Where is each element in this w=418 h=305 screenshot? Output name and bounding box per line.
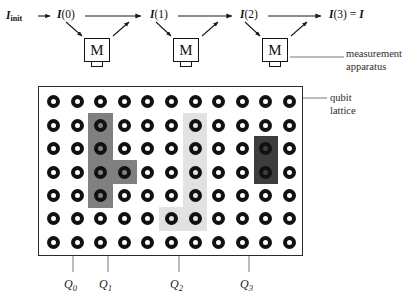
qubit-node: [259, 189, 272, 202]
qubit-node: [283, 212, 296, 225]
qubit-node: [141, 236, 154, 249]
qubit-node: [212, 166, 225, 179]
qubit-node: [283, 236, 296, 249]
qubit-node: [283, 119, 296, 132]
qubit-node: [141, 166, 154, 179]
qubit-node: [141, 119, 154, 132]
qubit-node: [259, 119, 272, 132]
qubit-node: [189, 119, 202, 132]
arrow-i2-down-m2: [245, 22, 260, 36]
arrow-i1-down-m1: [156, 22, 171, 36]
qubit-node: [94, 95, 107, 108]
measurement-box-stand: [91, 62, 103, 67]
qubit-node: [189, 212, 202, 225]
qubit-node: [118, 189, 131, 202]
measurement-apparatus-m1: M: [173, 38, 199, 67]
qubit-node: [118, 236, 131, 249]
qubit-set-label-Q3: Q3: [240, 278, 253, 290]
flow-label-i3: I(3) = I: [329, 9, 364, 21]
qubit-set-label-Q2: Q2: [170, 278, 183, 290]
qubit-node: [212, 142, 225, 155]
flow-label-i0: I(0): [57, 9, 75, 21]
qubit-node: [283, 189, 296, 202]
qubit-node: [141, 95, 154, 108]
qubit-node: [259, 166, 272, 179]
callout-measurement-line1: measurement: [346, 47, 402, 60]
qubit-node: [118, 166, 131, 179]
qubit-node: [236, 236, 249, 249]
qubit-node: [189, 236, 202, 249]
qubit-node: [47, 166, 60, 179]
qubit-node: [189, 95, 202, 108]
qubit-node: [212, 189, 225, 202]
qubit-node: [47, 142, 60, 155]
qubit-node: [236, 142, 249, 155]
qubit-node: [71, 142, 84, 155]
qubit-node: [94, 212, 107, 225]
qubit-node: [47, 95, 60, 108]
qubit-node: [165, 142, 178, 155]
qubit-node: [189, 166, 202, 179]
qubit-node: [94, 236, 107, 249]
qubit-node: [165, 166, 178, 179]
qubit-node: [236, 189, 249, 202]
qubit-node: [236, 212, 249, 225]
qubit-node: [283, 95, 296, 108]
qubit-node: [141, 189, 154, 202]
qubit-node: [189, 189, 202, 202]
measurement-apparatus-m0: M: [84, 38, 110, 67]
qubit-lattice: [38, 86, 303, 256]
qubit-node: [165, 189, 178, 202]
flow-label-i2: I(2): [240, 9, 258, 21]
qubit-node: [165, 236, 178, 249]
qubit-node: [259, 212, 272, 225]
qubit-node: [189, 142, 202, 155]
qubit-node: [118, 119, 131, 132]
qubit-node: [165, 95, 178, 108]
qubit-node: [118, 212, 131, 225]
qubit-node: [47, 212, 60, 225]
qubit-node: [141, 212, 154, 225]
qubit-set-label-Q0: Q0: [64, 278, 77, 290]
qubit-node: [236, 166, 249, 179]
arrow-i0-down-m0: [66, 22, 82, 36]
arrow-m0-up-i1: [113, 22, 129, 36]
qubit-node: [141, 142, 154, 155]
qubit-node: [236, 119, 249, 132]
qubit-node: [47, 189, 60, 202]
qubit-node: [212, 212, 225, 225]
flow-label-i1: I(1): [150, 9, 168, 21]
qubit-node: [71, 95, 84, 108]
figure-root: IinitI(0)I(1)I(2)I(3) = I MMM measuremen…: [0, 0, 418, 305]
qubit-node: [47, 119, 60, 132]
qubit-node: [212, 119, 225, 132]
measurement-box-label: M: [84, 38, 110, 62]
callout-measurement-apparatus: measurement apparatus: [346, 47, 402, 73]
qubit-node: [212, 95, 225, 108]
qubit-node: [283, 142, 296, 155]
qubit-node: [71, 212, 84, 225]
callout-lattice-line2: lattice: [330, 104, 356, 117]
qubit-node: [259, 236, 272, 249]
qubit-node: [212, 236, 225, 249]
arrow-m2-up-i3: [291, 22, 307, 36]
qubit-node: [236, 95, 249, 108]
qubit-node: [94, 119, 107, 132]
qubit-node: [94, 189, 107, 202]
qubit-node: [71, 166, 84, 179]
qubit-node: [165, 119, 178, 132]
callout-measurement-line2: apparatus: [346, 60, 402, 73]
qubit-node: [259, 95, 272, 108]
measurement-box-label: M: [173, 38, 199, 62]
qubit-node: [71, 189, 84, 202]
flow-label-init: Iinit: [6, 10, 22, 22]
qubit-node: [94, 166, 107, 179]
measurement-box-stand: [269, 62, 281, 67]
arrow-m1-up-i2: [202, 22, 218, 36]
measurement-box-stand: [180, 62, 192, 67]
callout-qubit-lattice: qubit lattice: [330, 91, 356, 117]
measurement-box-label: M: [262, 38, 288, 62]
qubit-node: [283, 166, 296, 179]
callout-lattice-line1: qubit: [330, 91, 356, 104]
qubit-node: [118, 95, 131, 108]
